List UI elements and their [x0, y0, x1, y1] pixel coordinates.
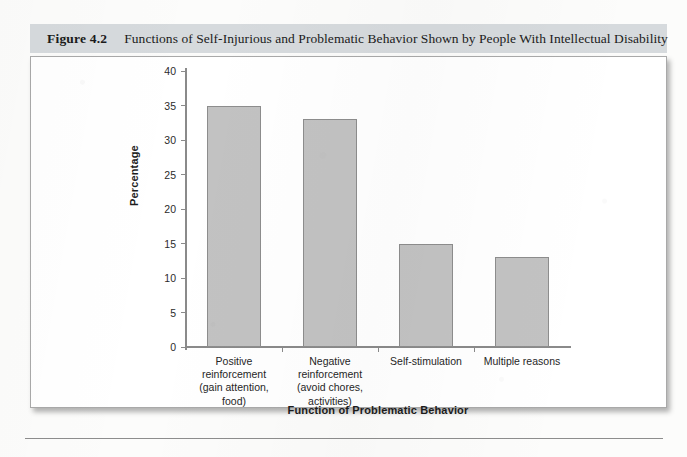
figure-number-label: Figure 4.2 [47, 31, 107, 47]
x-axis-category-label: Negativereinforcement(avoid chores,activ… [282, 355, 378, 408]
y-axis-tick-mark [181, 278, 186, 279]
y-axis-tick-mark [181, 105, 186, 106]
y-axis-tick-label: 40 [164, 65, 176, 77]
y-axis-tick-label: 10 [164, 272, 176, 284]
y-axis-tick: 15 [164, 238, 186, 250]
figure-caption-text: Functions of Self-Injurious and Problema… [124, 31, 668, 47]
y-axis-tick-label: 30 [164, 134, 176, 146]
category-label-line: Negative [282, 355, 378, 368]
figure-caption-band: Figure 4.2 Functions of Self-Injurious a… [30, 24, 667, 53]
page-rule [25, 438, 663, 439]
category-label-line: activities) [282, 395, 378, 408]
y-axis-tick: 30 [164, 134, 186, 146]
y-axis-tick: 10 [164, 272, 186, 284]
x-axis-tick-mark [378, 347, 379, 352]
y-axis-tick: 25 [164, 169, 186, 181]
category-label-line: (gain attention, [186, 381, 282, 394]
x-axis-tick-mark [282, 347, 283, 352]
x-axis-category-label: Self-stimulation [378, 355, 474, 368]
y-axis-tick-mark [181, 209, 186, 210]
category-label-line: (avoid chores, [282, 381, 378, 394]
y-axis-tick: 35 [164, 100, 186, 112]
y-axis-tick-label: 0 [170, 341, 176, 353]
y-axis-tick: 0 [170, 341, 186, 353]
bar [495, 257, 549, 347]
y-axis-tick-mark [181, 140, 186, 141]
y-axis-tick-label: 15 [164, 238, 176, 250]
x-axis-category-label: Positivereinforcement(gain attention,foo… [186, 355, 282, 408]
category-label-line: food) [186, 395, 282, 408]
y-axis-tick-label: 20 [164, 203, 176, 215]
plot-area: 4035302520151050 [186, 71, 570, 347]
y-axis-tick-label: 5 [170, 307, 176, 319]
y-axis-tick: 40 [164, 65, 186, 77]
bar [207, 106, 261, 348]
category-label-line: Multiple reasons [474, 355, 570, 368]
y-axis-tick: 20 [164, 203, 186, 215]
y-axis-tick-mark [181, 243, 186, 244]
category-label-line: Self-stimulation [378, 355, 474, 368]
bar [399, 244, 453, 348]
y-axis-tick-label: 35 [164, 100, 176, 112]
category-label-line: reinforcement [282, 368, 378, 381]
y-axis-tick-mark [181, 347, 186, 348]
y-axis-tick-mark [181, 312, 186, 313]
x-axis-tick-mark [474, 347, 475, 352]
category-label-line: reinforcement [186, 368, 282, 381]
y-axis-tick-mark [181, 174, 186, 175]
y-axis-title: Percentage [128, 145, 140, 206]
category-label-line: Positive [186, 355, 282, 368]
y-axis-tick-mark [181, 71, 186, 72]
bar [303, 119, 357, 347]
y-axis-tick: 5 [170, 307, 186, 319]
x-axis-category-label: Multiple reasons [474, 355, 570, 368]
y-axis-tick-label: 25 [164, 169, 176, 181]
